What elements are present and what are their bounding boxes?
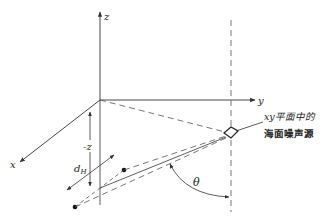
ray-lower-dashed (75, 138, 226, 207)
origin-to-source-dashed-line (100, 100, 229, 133)
noise-source-patch-icon (224, 127, 238, 138)
depth-label: -z (83, 141, 92, 152)
upper-dot-to-axis-dashed (100, 170, 124, 188)
source-label-line1: xy平面中的 (264, 111, 316, 122)
ray-upper-dashed (124, 136, 226, 170)
source-label-leader-line (236, 122, 263, 131)
x-axis (20, 100, 100, 162)
surface-noise-geometry-diagram: z y x xy平面中的 海面噪声源 -z dH θ (0, 0, 326, 217)
ray-center-solid (100, 137, 226, 188)
angle-label: θ (193, 176, 200, 189)
z-axis-label: z (103, 11, 110, 22)
source-label-line2: 海面噪声源 (264, 128, 314, 139)
x-axis-label: x (10, 159, 16, 170)
horizontal-distance-label: dH (74, 163, 87, 176)
y-axis-label: y (257, 95, 264, 106)
